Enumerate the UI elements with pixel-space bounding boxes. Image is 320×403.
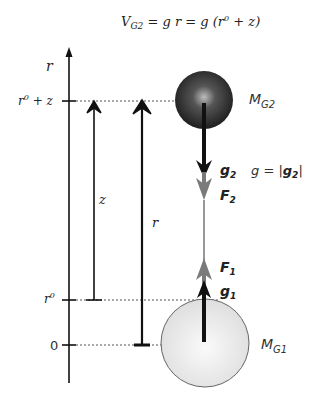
gravity-diagram: VG2 = g r = g (r0 + z) r r0 + z r0 0 z r…: [0, 0, 320, 403]
F1-label: F1: [220, 259, 236, 277]
r-label: r: [152, 215, 159, 230]
axis-arrow-icon: [66, 47, 73, 57]
tick-label-r0: r0: [44, 291, 55, 306]
g-magnitude-definition: g = |g2|: [251, 163, 303, 180]
F2-label: F2: [220, 187, 236, 205]
axis-label: r: [46, 58, 54, 74]
z-label: z: [98, 192, 106, 207]
mass-g1-label: MG1: [261, 336, 287, 355]
g2-label: g2: [220, 162, 236, 180]
tick-label-r0-plus-z: r0 + z: [18, 93, 54, 108]
potential-equation: VG2 = g r = g (r0 + z): [121, 14, 260, 31]
g1-label: g1: [220, 283, 236, 301]
tick-label-zero: 0: [50, 338, 58, 353]
mass-g2-label: MG2: [249, 91, 275, 110]
